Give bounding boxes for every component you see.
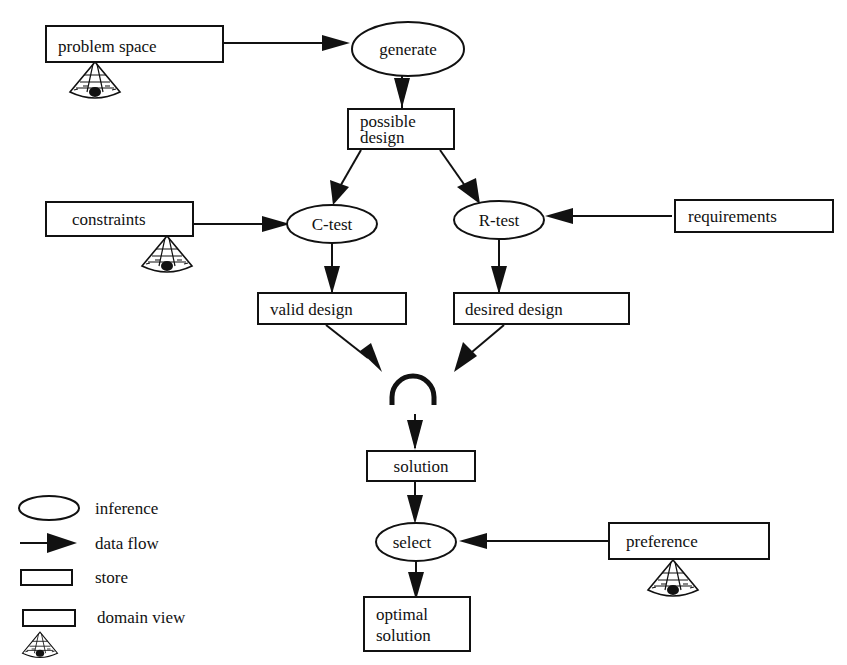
edge-valid-design-to-intersection [326, 325, 382, 372]
node-select-label: select [393, 533, 432, 552]
edge-desired-design-to-intersection [454, 325, 504, 372]
legend-data-flow-label: data flow [95, 534, 159, 553]
node-requirements: requirements [675, 200, 833, 232]
edge-intersection-to-solution [407, 414, 423, 450]
node-optimal-solution-label-line2: solution [376, 626, 431, 645]
node-preference: preference [609, 523, 769, 596]
domain-view-icon [70, 62, 120, 98]
legend-store-label: store [95, 568, 128, 587]
node-optimal-solution-label-line1: optimal [376, 605, 428, 624]
edge-solution-to-select [407, 480, 423, 524]
node-requirements-label: requirements [688, 207, 777, 226]
edge-preference-to-select [459, 533, 608, 549]
legend: inference data flow store domain view [19, 496, 186, 657]
node-problem-space-label: problem space [58, 37, 157, 56]
legend-item-data-flow: data flow [20, 533, 159, 553]
node-preference-label: preference [626, 532, 698, 551]
node-valid-design: valid design [258, 293, 406, 324]
node-solution: solution [367, 451, 475, 481]
inference-ellipse-icon [19, 496, 79, 520]
node-r-test-label: R-test [479, 211, 520, 230]
node-valid-design-label: valid design [270, 300, 353, 319]
edge-constraints-to-c-test [194, 216, 290, 232]
edge-select-to-optimal-solution [408, 560, 424, 600]
node-c-test: C-test [287, 205, 377, 243]
node-select: select [376, 523, 456, 561]
legend-domain-view-label: domain view [97, 608, 186, 627]
node-constraints: constraints [46, 202, 193, 272]
legend-item-store: store [21, 568, 128, 587]
design-process-diagram: problem space generate possible design c… [0, 0, 847, 665]
edge-generate-to-possible-design [394, 76, 410, 108]
domain-view-icon [23, 632, 58, 657]
node-constraints-label: constraints [72, 210, 146, 229]
node-solution-label: solution [394, 457, 449, 476]
edge-r-test-to-desired-design [491, 239, 507, 294]
edge-c-test-to-valid-design [324, 243, 340, 294]
node-optimal-solution: optimal solution [364, 597, 470, 651]
edge-possible-design-to-r-test [440, 150, 480, 204]
node-possible-design: possible design [348, 109, 454, 149]
node-problem-space: problem space [46, 26, 223, 98]
domain-view-icon [142, 236, 192, 272]
edge-requirements-to-r-test [545, 208, 672, 224]
legend-item-domain-view: domain view [23, 608, 187, 657]
node-r-test: R-test [454, 201, 544, 239]
store-rect-icon [21, 570, 72, 585]
diagram-canvas: problem space generate possible design c… [0, 0, 847, 665]
node-generate-label: generate [379, 40, 437, 59]
node-generate: generate [352, 22, 464, 76]
edge-problem-space-to-generate [224, 35, 350, 51]
intersection-operator [392, 376, 434, 405]
node-desired-design-label: desired design [465, 300, 563, 319]
node-desired-design: desired design [454, 293, 629, 324]
legend-inference-label: inference [95, 499, 158, 518]
domain-view-rect-icon [23, 610, 75, 626]
domain-view-icon [648, 560, 698, 596]
node-c-test-label: C-test [312, 215, 353, 234]
node-possible-design-label-line2: design [360, 128, 405, 147]
edge-possible-design-to-c-test [330, 150, 361, 205]
legend-item-inference: inference [19, 496, 158, 520]
